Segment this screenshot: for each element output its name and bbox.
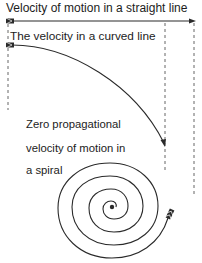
- straight-arrow: [6, 18, 196, 24]
- arrow-fletching-icon: [165, 208, 175, 220]
- spiral-label-line-3: a spiral: [26, 164, 62, 177]
- spiral-label-line-2: velocity of motion in: [26, 142, 125, 155]
- straight-line-label: Velocity of motion in a straight line: [6, 2, 187, 15]
- spiral-arrow: [58, 163, 175, 258]
- curved-arrow: [6, 42, 166, 147]
- arrow-fletching-icon: [6, 18, 14, 24]
- spiral-label-line-1: Zero propagational: [26, 118, 121, 131]
- spiral-center-arrowhead-icon: [110, 205, 114, 209]
- curved-line-label: The velocity in a curved line: [10, 30, 156, 43]
- arrowhead-icon: [189, 19, 196, 24]
